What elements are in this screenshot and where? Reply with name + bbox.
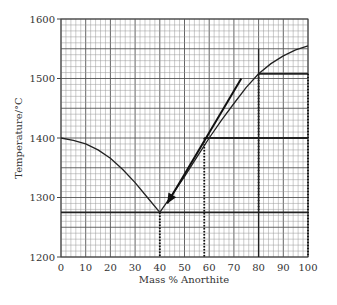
x-tick-label: 60 — [203, 262, 216, 273]
x-tick-label: 30 — [129, 262, 142, 273]
y-axis-label: Temperature/°C — [13, 97, 24, 179]
x-axis-label: Mass % Anorthite — [139, 274, 229, 285]
x-tick-label: 0 — [58, 262, 64, 273]
y-tick-label: 1400 — [30, 133, 55, 144]
axis-ticks: 0102030405060708090100120013001400150016… — [30, 14, 318, 274]
x-tick-label: 40 — [153, 262, 166, 273]
x-tick-label: 70 — [228, 262, 241, 273]
y-tick-label: 1300 — [30, 192, 55, 203]
x-tick-label: 100 — [298, 262, 317, 273]
x-tick-label: 50 — [178, 262, 191, 273]
x-tick-label: 10 — [79, 262, 92, 273]
y-tick-label: 1600 — [30, 14, 55, 25]
x-tick-label: 80 — [252, 262, 265, 273]
x-tick-label: 20 — [104, 262, 117, 273]
x-tick-label: 90 — [277, 262, 290, 273]
y-tick-label: 1500 — [30, 73, 55, 84]
phase-diagram-chart: 0102030405060708090100120013001400150016… — [0, 0, 337, 305]
y-tick-label: 1200 — [30, 252, 55, 263]
